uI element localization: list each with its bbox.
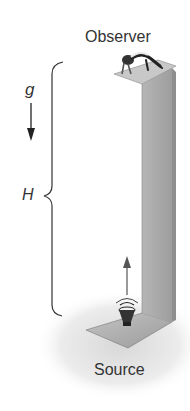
pillar-side — [172, 68, 176, 322]
curly-brace-icon — [44, 62, 63, 316]
pillar-front — [142, 68, 172, 322]
source-label: Source — [94, 361, 145, 379]
height-label: H — [22, 186, 34, 204]
gravity-label: g — [25, 80, 34, 100]
arrow-up-icon — [123, 256, 131, 295]
tower-diagram — [0, 0, 190, 411]
arrow-down-icon — [27, 103, 35, 141]
observer-label: Observer — [85, 28, 151, 46]
